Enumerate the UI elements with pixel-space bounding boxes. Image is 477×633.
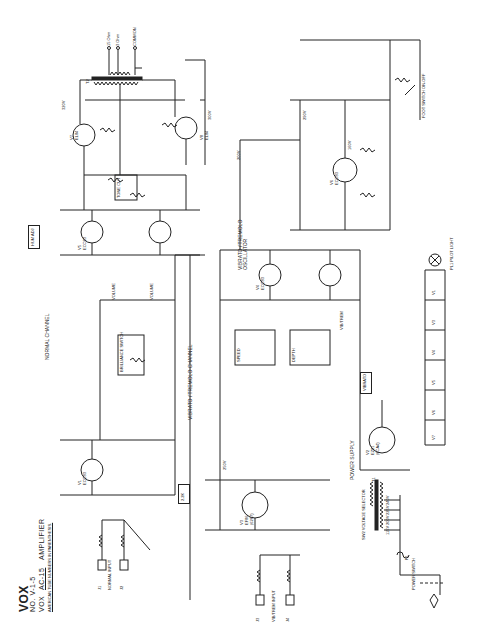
tap-15-ohm: 15 Ohm xyxy=(107,32,111,46)
drawing-number: NO. V-1-5 xyxy=(29,576,36,612)
vibrato-channel-label: VIBRATO / TREMOLO CHANNEL xyxy=(188,344,193,420)
input-j1: J1 xyxy=(98,586,102,590)
schematic-sheet: VOX NO. V-1-5 VOX AC-15 AMPLIFIER AMERIC… xyxy=(0,0,477,633)
heater-v1: V1 xyxy=(432,290,436,295)
foot-switch-label: FOOT SWITCH ON-OFF xyxy=(422,74,426,118)
model-suffix: AMPLIFIER xyxy=(38,519,45,560)
brilliance-switch-label: BRILLIANCE SWITCH xyxy=(120,332,124,372)
input-j2: J2 xyxy=(120,586,124,590)
tap-common: COMMON xyxy=(133,27,137,46)
tube-v8-type: EL84 xyxy=(205,131,209,140)
tap-3-ohm: 3 Ohm xyxy=(116,34,120,46)
hum-adj-box: HUM ADJ xyxy=(28,225,40,249)
resistor-note-box: 2.2K xyxy=(178,484,190,504)
vibrato-input-label: VIB/TREM INPUT xyxy=(272,590,276,622)
heater-v5: V5 xyxy=(432,380,436,385)
pilot-light-label: PL1 PILOT LIGHT xyxy=(450,237,454,270)
normal-channel-label: NORMAL CHANNEL xyxy=(45,314,50,361)
heater-v4: V4 xyxy=(432,350,436,355)
voltage-290v: 290V xyxy=(303,111,307,120)
power-supply-label: POWER SUPPLY xyxy=(350,440,355,480)
tube-note: AMERICAN TUBE NUMBERS IN PARENTHESIS. xyxy=(48,523,52,612)
fuse-ref: F1 xyxy=(405,555,409,560)
vib-trem-label: VIB/TREM xyxy=(340,311,344,330)
schematic-wiring xyxy=(0,0,477,633)
tap-240v: 240V xyxy=(386,496,390,505)
voltage-selector-label: SW2 VOLTAGE SELECTOR xyxy=(362,489,366,540)
tap-115v: 115V xyxy=(386,526,390,535)
input-j4: J4 xyxy=(286,618,290,622)
tube-v5-type: ECC83 xyxy=(83,237,87,250)
voltage-200v: 200V xyxy=(237,151,241,160)
oscillator-label: VIBRATO / TREMOLO OSCILLATOR xyxy=(238,210,248,270)
tube-v4-type: ECC83 xyxy=(261,277,265,290)
tap-225v: 225V xyxy=(386,506,390,515)
heater-v7: V7 xyxy=(432,435,436,440)
normal-channel-preamp xyxy=(60,255,175,570)
speed-label: SPEED xyxy=(237,348,241,362)
model-name: AC-15 xyxy=(38,568,45,590)
vibrato-note-box: VIBRATO xyxy=(360,372,372,394)
vibrato-channel xyxy=(205,250,360,605)
tube-v1-type: ECC83 xyxy=(83,472,87,485)
voltage-300v: 300V xyxy=(208,111,212,120)
output-transformer xyxy=(80,47,185,101)
normal-volume-label: VOLUME xyxy=(112,283,116,300)
normal-input-label: NORMAL INPUT xyxy=(108,560,112,590)
tube-v7-type: EL84 xyxy=(75,131,79,140)
vibrato-volume-label: VOLUME xyxy=(150,283,154,300)
phase-inverter xyxy=(60,175,200,255)
voltage-160v: 160V xyxy=(348,141,352,150)
tube-v2-us: (6CA4) xyxy=(376,442,380,455)
oscillator xyxy=(240,40,420,250)
output-transformer-ref: T2 xyxy=(86,79,90,84)
power-switch-label: POWER SWITCH xyxy=(412,558,416,590)
tap-200v: 200V xyxy=(386,516,390,525)
voltage-320v: 320V xyxy=(62,101,66,110)
power-supply xyxy=(360,254,445,608)
depth-label: DEPTH xyxy=(292,348,296,362)
hum-adj-label: HUM ADJ xyxy=(31,228,35,246)
tone-cut-label: TONE CUT xyxy=(117,178,121,198)
heater-v3: V3 xyxy=(432,320,436,325)
model-prefix: VOX xyxy=(38,596,45,612)
power-transformer-ref: T1 xyxy=(372,477,376,482)
input-j3: J3 xyxy=(256,618,260,622)
voltage-250v: 250V xyxy=(223,461,227,470)
tube-v6-type: ECC83 xyxy=(335,172,339,185)
tube-v3-us: (6267) xyxy=(250,513,254,525)
heater-v6: V6 xyxy=(432,410,436,415)
resistor-note-label: 2.2K xyxy=(181,493,185,501)
vibrato-note-label: VIBRATO xyxy=(363,374,367,391)
